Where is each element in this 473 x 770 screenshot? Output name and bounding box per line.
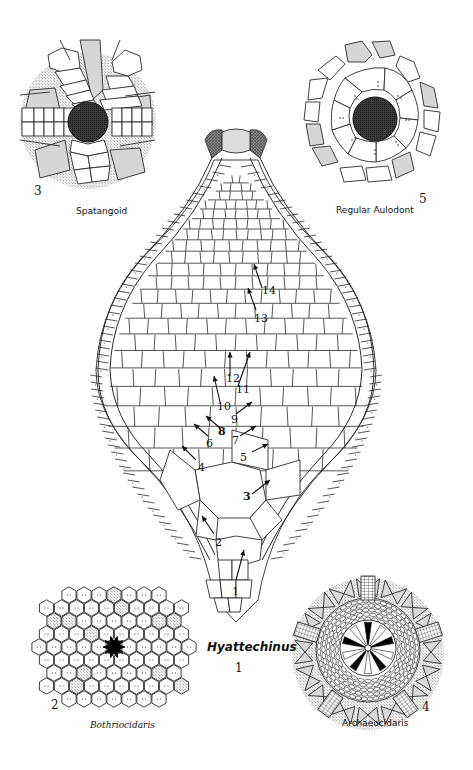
- plate-label-12: 12: [226, 373, 240, 384]
- spatangoid-inset: [20, 40, 156, 189]
- plate-label-2: 2: [215, 537, 222, 548]
- figure-number-archaeocidaris: 4: [422, 700, 430, 714]
- regular-aulodont-inset: [304, 41, 440, 182]
- plate-label-1: 1: [232, 586, 239, 597]
- plate-label-5: 5: [240, 452, 247, 463]
- figure-number-bothriocidaris: 2: [51, 698, 59, 712]
- caption-bothriocidaris: Bothriocidaris: [90, 720, 155, 730]
- plate-label-7: 7: [232, 435, 239, 446]
- plate-label-3: 3: [243, 491, 251, 502]
- plate-label-10: 10: [217, 401, 231, 412]
- figure-number-hyattechinus: 1: [235, 661, 243, 675]
- plate-label-4: 4: [198, 462, 205, 473]
- caption-spatangoid: Spatangoid: [76, 206, 127, 216]
- figure-number-spatangoid: 3: [34, 184, 42, 198]
- plate-label-13: 13: [254, 313, 268, 324]
- plate-label-8: 8: [218, 426, 226, 437]
- plate-label-6: 6: [206, 438, 213, 449]
- caption-archaeocidaris: Archaeocidaris: [342, 718, 408, 728]
- plate-label-14: 14: [262, 285, 276, 296]
- caption-hyattechinus: Hyattechinus: [207, 640, 297, 654]
- caption-regular-aulodont: Regular Aulodont: [336, 205, 414, 215]
- plate-label-11: 11: [236, 384, 250, 395]
- bothriocidaris-inset: [32, 587, 196, 707]
- figure-number-regular-aulodont: 5: [419, 192, 427, 206]
- plate-label-9: 9: [231, 414, 238, 425]
